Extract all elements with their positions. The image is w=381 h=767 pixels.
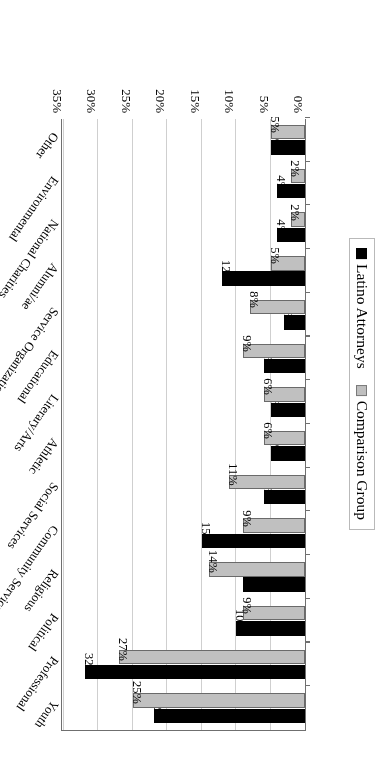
- category-tick: [305, 335, 310, 336]
- bar-value-label: 5%: [267, 116, 282, 133]
- category-tick: [305, 467, 310, 468]
- bar-value-label: 25%: [129, 682, 144, 705]
- value-axis-tick: 5%: [256, 96, 272, 113]
- bar-value-label: 9%: [239, 597, 254, 614]
- bar-latino-attorneys: [202, 534, 305, 548]
- category-tick: [305, 423, 310, 424]
- category-tick: [305, 161, 310, 162]
- legend-swatch-dark-icon: [357, 248, 368, 259]
- legend-item-comparison-group: Comparison Group: [353, 385, 371, 520]
- category-tick: [305, 204, 310, 205]
- category-tick: [305, 248, 310, 249]
- bar-value-label: 9%: [239, 510, 254, 527]
- bar-value-label: 12%: [218, 260, 233, 283]
- bar-value-label: 27%: [115, 638, 130, 661]
- category-tick: [305, 379, 310, 380]
- legend-swatch-light-icon: [357, 385, 368, 396]
- category-label: Political: [24, 610, 61, 654]
- value-axis-tick: 0%: [290, 96, 306, 113]
- gridline: [97, 119, 98, 730]
- plot-area-wrapper: 0%5%10%15%20%25%30%35% 22%25%32%27%10%9%…: [47, 55, 337, 731]
- gridline: [63, 119, 64, 730]
- gridline: [132, 119, 133, 730]
- bar-latino-attorneys: [222, 271, 305, 285]
- legend-label-comparison-group: Comparison Group: [353, 401, 371, 520]
- bar-value-label: 32%: [81, 653, 96, 676]
- value-axis-tick: 10%: [221, 89, 237, 113]
- gridline: [166, 119, 167, 730]
- category-axis-labels: YouthProfessionalPoliticalReligiousCommu…: [0, 119, 61, 731]
- category-tick: [305, 292, 310, 293]
- category-label: Youth: [31, 697, 61, 731]
- bar-value-label: 4%: [273, 219, 288, 236]
- value-axis-tick: 25%: [118, 89, 134, 113]
- category-tick: [305, 685, 310, 686]
- bar-value-label: 9%: [239, 335, 254, 352]
- bar-value-label: 2%: [287, 160, 302, 177]
- bar-value-label: 6%: [260, 379, 275, 396]
- bar-comparison-group: [133, 693, 305, 707]
- category-label: Other: [32, 129, 61, 161]
- bar-latino-attorneys: [154, 709, 305, 723]
- plot-area: 22%25%32%27%10%9%9%14%15%9%6%11%5%6%5%6%…: [61, 119, 306, 731]
- category-tick: [305, 510, 310, 511]
- bar-value-label: 2%: [287, 204, 302, 221]
- legend-item-latino-attorneys: Latino Attorneys: [353, 248, 371, 369]
- value-axis-tick: 30%: [83, 89, 99, 113]
- value-axis-tick: 35%: [49, 89, 65, 113]
- category-tick: [305, 598, 310, 599]
- value-axis-tick: 20%: [152, 89, 168, 113]
- bar-value-label: 6%: [260, 422, 275, 439]
- bar-comparison-group: [229, 475, 305, 489]
- bar-value-label: 5%: [267, 248, 282, 265]
- legend-label-latino-attorneys: Latino Attorneys: [353, 264, 371, 369]
- bar-value-label: 8%: [246, 291, 261, 308]
- bar-latino-attorneys: [85, 665, 305, 679]
- chart-figure: Latino Attorneys Comparison Group Percen…: [0, 0, 381, 767]
- bar-value-label: 14%: [205, 550, 220, 573]
- bar-value-label: 11%: [225, 463, 240, 485]
- gridline: [235, 119, 236, 730]
- chart-legend: Latino Attorneys Comparison Group: [349, 238, 375, 530]
- bar-comparison-group: [209, 562, 305, 576]
- gridline: [201, 119, 202, 730]
- value-axis-tick: 15%: [187, 89, 203, 113]
- bar-comparison-group: [119, 650, 305, 664]
- bar-value-label: 4%: [273, 175, 288, 192]
- category-tick: [305, 117, 310, 118]
- category-tick: [305, 641, 310, 642]
- category-tick: [305, 554, 310, 555]
- bar-value-label: 15%: [198, 522, 213, 545]
